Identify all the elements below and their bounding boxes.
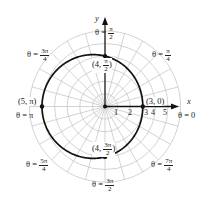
grid-spoke bbox=[105, 41, 143, 106]
fraction: 3π4 bbox=[40, 48, 49, 63]
fraction: 7π4 bbox=[164, 158, 173, 173]
angle-label-3pi-2: θ = 3π2 bbox=[92, 178, 114, 193]
angle-label-5pi-4: θ = 5π4 bbox=[26, 158, 48, 173]
fraction: 5π4 bbox=[39, 158, 48, 173]
angle-label-pi: θ = π bbox=[16, 111, 33, 120]
angle-label-7pi-4: θ = 7π4 bbox=[151, 158, 173, 173]
radial-tick-3: 3 bbox=[144, 109, 148, 117]
point-label-5-pi: (5, π) bbox=[18, 97, 36, 106]
angle-label-3pi-4: θ = 3π4 bbox=[27, 48, 49, 63]
grid-spoke bbox=[40, 107, 105, 145]
angle-label-pi-2: θ = π2 bbox=[95, 26, 114, 41]
angle-label-0: θ = 0 bbox=[178, 111, 195, 120]
grid-spoke bbox=[67, 107, 105, 172]
grid-spoke bbox=[105, 107, 143, 172]
point-label-4-pi-2: (4, π2) bbox=[92, 58, 112, 73]
curve-point bbox=[40, 104, 44, 108]
grid-spoke bbox=[67, 41, 105, 106]
fraction: π2 bbox=[108, 26, 114, 41]
origin-point bbox=[103, 105, 107, 109]
point-label-4-3pi-2: (4, 3π2) bbox=[92, 142, 115, 157]
point-label-3-0: (3, 0) bbox=[146, 97, 164, 106]
fraction: π4 bbox=[165, 48, 171, 63]
radial-tick-5: 5 bbox=[163, 109, 167, 117]
x-axis-arrow-icon bbox=[171, 104, 179, 110]
grid-spoke bbox=[40, 69, 105, 107]
radial-tick-4: 4 bbox=[151, 109, 155, 117]
radial-tick-2: 2 bbox=[128, 109, 132, 117]
radial-tick-1: 1 bbox=[114, 109, 118, 117]
x-axis-label: x bbox=[187, 97, 191, 106]
angle-label-pi-4: θ = π4 bbox=[152, 48, 171, 63]
y-axis-arrow-icon bbox=[102, 17, 108, 25]
y-axis-label: y bbox=[95, 14, 99, 23]
fraction: 3π2 bbox=[105, 178, 114, 193]
